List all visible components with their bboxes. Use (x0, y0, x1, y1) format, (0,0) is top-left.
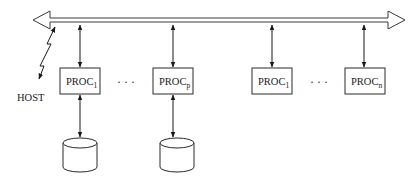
processor-1: PROC1 (60, 25, 100, 172)
ellipsis: · · · (310, 75, 328, 89)
processor-subscript: p (186, 81, 190, 90)
processor-label: PROC (351, 76, 378, 87)
architecture-diagram: HOST PROC1 · · · PROCp PROC1 (0, 0, 420, 179)
processor-label: PROC (66, 76, 93, 87)
processor-n: PROCn (345, 25, 385, 94)
processor-label: PROC (159, 76, 186, 87)
processor-subscript: n (378, 81, 382, 90)
ellipsis: · · · (117, 75, 135, 89)
processor-subscript: 1 (285, 81, 289, 90)
disk-icon (160, 138, 194, 172)
disk-icon (63, 138, 97, 172)
host-label: HOST (17, 92, 45, 103)
processor-label: PROC (258, 76, 285, 87)
processor-1-group-2: PROC1 (252, 25, 292, 94)
processor-subscript: 1 (93, 81, 97, 90)
system-bus (33, 11, 405, 29)
processor-p: PROCp (153, 25, 194, 172)
host-link (39, 27, 55, 79)
